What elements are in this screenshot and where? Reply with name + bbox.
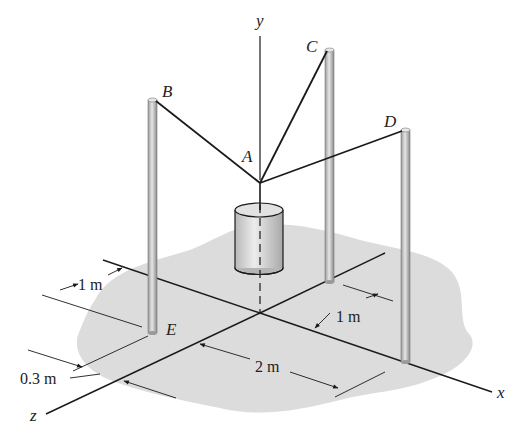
point-d-label: D — [383, 112, 397, 131]
point-b-label: B — [162, 82, 173, 101]
svg-text:1 m: 1 m — [78, 276, 103, 293]
svg-text:1 m: 1 m — [336, 308, 361, 325]
post-d — [401, 128, 410, 364]
post-c — [325, 48, 334, 284]
cable-ab — [156, 101, 260, 183]
diagram-canvas: y x z — [0, 0, 517, 436]
svg-text:2 m: 2 m — [255, 358, 280, 375]
point-a-label: A — [241, 147, 253, 166]
svg-text:0.3 m: 0.3 m — [20, 370, 57, 387]
x-axis-label: x — [496, 383, 505, 402]
post-b-e — [148, 98, 157, 335]
cable-ac — [260, 51, 327, 183]
z-axis-label: z — [29, 406, 37, 425]
suspended-cylinder — [235, 203, 283, 275]
y-axis-label: y — [254, 11, 264, 30]
point-e-label: E — [165, 320, 177, 339]
point-c-label: C — [306, 37, 318, 56]
